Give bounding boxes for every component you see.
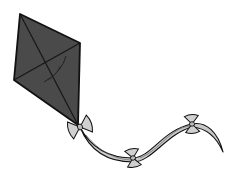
kite-body (14, 14, 80, 125)
kite-tail-ribbon (80, 124, 223, 162)
kite-illustration: Kite with ribbon tail and bows (0, 0, 241, 187)
kite-drawing (0, 0, 241, 187)
